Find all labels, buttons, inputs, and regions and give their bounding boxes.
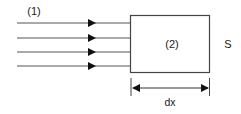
ray-arrowhead-icon-4	[88, 62, 96, 70]
ray-arrowhead-icon-3	[88, 48, 96, 56]
label-area-s: S	[224, 38, 231, 50]
incoming-ray-4	[17, 62, 130, 70]
dimension-line-dx	[132, 84, 209, 92]
ray-arrowhead-icon-2	[88, 34, 96, 42]
incoming-ray-group	[17, 19, 130, 70]
dimension-arrowhead-right-icon	[201, 84, 209, 92]
incoming-ray-3	[17, 48, 130, 56]
diagram-canvas: (1) (2) S dx	[0, 0, 241, 114]
label-region-one: (1)	[27, 5, 40, 17]
physics-diagram-figure: (1) (2) S dx	[0, 0, 241, 114]
label-thickness-dx: dx	[164, 96, 176, 108]
label-region-two: (2)	[165, 38, 178, 50]
incoming-ray-1	[17, 19, 130, 27]
ray-arrowhead-icon-1	[88, 19, 96, 27]
dimension-arrowhead-left-icon	[132, 84, 140, 92]
incoming-ray-2	[17, 34, 130, 42]
